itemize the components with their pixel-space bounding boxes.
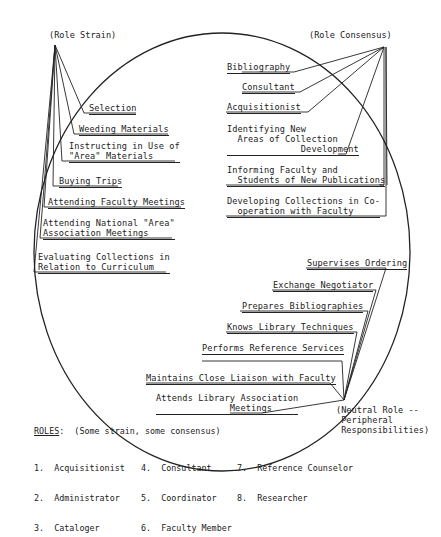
strain-item-national-meetings: Attending National "Area" Association Me… bbox=[43, 218, 175, 240]
neutral-item-knows: Knows Library Techniques bbox=[227, 322, 354, 334]
neutral-role-label: (Neutral Role -- Peripheral Responsibili… bbox=[336, 405, 429, 435]
legend-item: 5. Coordinator bbox=[141, 493, 237, 503]
consensus-item-developing: Developing Collections in Co- operation … bbox=[227, 196, 380, 218]
neutral-item-attends: Attends Library Association Meetings bbox=[156, 393, 298, 415]
strain-item-weeding: Weeding Materials bbox=[79, 124, 169, 136]
strain-item-buying-trips: Buying Trips bbox=[59, 176, 122, 188]
strain-item-selection: Selection bbox=[89, 103, 136, 115]
legend-header: ROLES: (Some strain, some consensus) bbox=[34, 426, 221, 436]
neutral-item-supervises: Supervises Ordering bbox=[307, 258, 407, 270]
strain-item-instructing: Instructing in Use of "Area" Materials bbox=[69, 141, 180, 163]
strain-item-evaluating: Evaluating Collections in Relation to Cu… bbox=[38, 252, 170, 274]
legend-item: 2. Administrator bbox=[34, 493, 141, 503]
consensus-item-acquisitionist: Acquisitionist bbox=[227, 102, 301, 114]
legend-item: 4. Consultant bbox=[141, 463, 237, 473]
legend-item: 7. Reference Counselor bbox=[237, 463, 353, 473]
legend-subtitle: : (Some strain, some consensus) bbox=[59, 426, 220, 436]
legend-item: 6. Faculty Member bbox=[141, 523, 237, 533]
roles-legend: 1. Acquisitionist4. Consultant7. Referen… bbox=[34, 443, 353, 537]
legend-title: ROLES bbox=[34, 426, 59, 436]
consensus-item-informing: Informing Faculty and Students of New Pu… bbox=[227, 165, 385, 187]
legend-item: 1. Acquisitionist bbox=[34, 463, 141, 473]
legend-item: 3. Cataloger bbox=[34, 523, 141, 533]
neutral-item-performs: Performs Reference Services bbox=[202, 343, 344, 355]
role-consensus-label: (Role Consensus) bbox=[309, 30, 392, 40]
consensus-item-identifying: Identifying New Areas of Collection Deve… bbox=[227, 124, 359, 156]
strain-item-faculty-meetings: Attending Faculty Meetings bbox=[48, 197, 185, 209]
consensus-item-bibliography: Bibliography bbox=[227, 62, 290, 74]
neutral-item-maintains: Maintains Close Liaison with Faculty bbox=[146, 373, 336, 385]
neutral-item-exchange: Exchange Negotiator bbox=[273, 280, 373, 292]
consensus-item-consultant: Consultant bbox=[242, 82, 295, 94]
role-strain-label: (Role Strain) bbox=[49, 30, 116, 40]
neutral-item-prepares: Prepares Bibliographies bbox=[242, 301, 363, 313]
legend-item: 8. Researcher bbox=[237, 493, 308, 503]
